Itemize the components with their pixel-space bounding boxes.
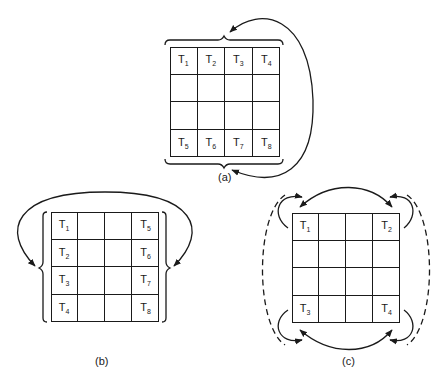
task-label: T7 — [140, 273, 151, 287]
grid-cell — [319, 241, 346, 269]
grid-cell: T8 — [253, 130, 281, 158]
grid-cell: T1 — [292, 213, 319, 241]
brace-right-b — [162, 212, 170, 322]
grid-cell — [105, 295, 132, 323]
task-label: T3 — [300, 302, 311, 316]
grid-cell — [170, 75, 198, 103]
grid-cell: T7 — [132, 267, 159, 295]
task-label: T8 — [261, 136, 272, 150]
grid-cell: T6 — [132, 240, 159, 268]
wrap-arrow-c-bottom — [300, 330, 392, 350]
grid-cell — [346, 213, 373, 241]
grid-cell: T3 — [292, 296, 319, 324]
grid-cell — [253, 102, 281, 130]
grid-cell — [292, 268, 319, 296]
caption-a: (a) — [218, 171, 231, 183]
grid-cell — [198, 75, 226, 103]
grid-cell — [78, 295, 105, 323]
grid-cell: T7 — [225, 130, 253, 158]
grid-cell: T3 — [51, 267, 78, 295]
task-label: T5 — [178, 136, 189, 150]
grid-cell: T4 — [373, 296, 400, 324]
task-label: T4 — [381, 302, 392, 316]
task-label: T4 — [59, 301, 70, 315]
grid-cell — [225, 102, 253, 130]
task-label: T3 — [233, 53, 244, 67]
grid-cell: T2 — [373, 213, 400, 241]
grid-cell — [170, 102, 198, 130]
task-label: T6 — [205, 136, 216, 150]
grid-cell — [105, 240, 132, 268]
task-label: T1 — [300, 219, 311, 233]
grid-cell — [373, 241, 400, 269]
brace-left-b — [39, 212, 47, 322]
grid-cell — [319, 213, 346, 241]
grid-cell: T1 — [51, 212, 78, 240]
grid-cell — [346, 296, 373, 324]
grid-cell: T8 — [132, 295, 159, 323]
caption-c: (c) — [342, 355, 355, 367]
task-label: T2 — [59, 246, 70, 260]
grid-cell — [319, 268, 346, 296]
grid-cell — [346, 268, 373, 296]
grid-cell: T5 — [132, 212, 159, 240]
wrap-arrow-c-left-dashed — [263, 195, 286, 345]
grid-cell: T4 — [253, 47, 281, 75]
grid-cell: T3 — [225, 47, 253, 75]
grid-cell — [105, 212, 132, 240]
grid-cell — [105, 267, 132, 295]
grid-cell — [78, 212, 105, 240]
grid-cell — [346, 241, 373, 269]
task-label: T3 — [59, 273, 70, 287]
brace-top-a — [165, 36, 283, 45]
brace-bottom-a — [165, 159, 283, 168]
task-label: T6 — [140, 246, 151, 260]
wrap-arrow-c-top — [300, 187, 392, 207]
grid-cell: T6 — [198, 130, 226, 158]
grid-cell: T1 — [170, 47, 198, 75]
grid-cell: T4 — [51, 295, 78, 323]
grid-cell — [198, 102, 226, 130]
grid-cell: T5 — [170, 130, 198, 158]
task-label: T8 — [140, 301, 151, 315]
task-label: T5 — [140, 218, 151, 232]
task-label: T2 — [205, 53, 216, 67]
task-label: T1 — [178, 53, 189, 67]
grid-cell — [225, 75, 253, 103]
grid-cell — [78, 267, 105, 295]
task-label: T1 — [59, 218, 70, 232]
task-label: T2 — [381, 219, 392, 233]
grid-cell — [373, 268, 400, 296]
task-label: T7 — [233, 136, 244, 150]
grid-cell: T2 — [51, 240, 78, 268]
grid-cell: T2 — [198, 47, 226, 75]
task-label: T4 — [261, 53, 272, 67]
wrap-arrow-c-right-dashed — [407, 195, 430, 345]
grid-cell — [319, 296, 346, 324]
grid-cell — [292, 241, 319, 269]
grid-cell — [253, 75, 281, 103]
caption-b: (b) — [95, 355, 108, 367]
grid-cell — [78, 240, 105, 268]
